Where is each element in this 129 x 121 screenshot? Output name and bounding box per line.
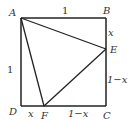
vertex-label-b: B bbox=[102, 5, 110, 16]
vertex-label-d: D bbox=[8, 106, 17, 117]
segment-ef bbox=[44, 49, 106, 106]
length-label-df: x bbox=[28, 108, 34, 119]
length-label-ab: 1 bbox=[62, 5, 68, 16]
segment-ae bbox=[21, 18, 106, 49]
length-label-ec: 1−x bbox=[107, 74, 128, 85]
vertex-label-e: E bbox=[109, 44, 118, 55]
length-label-fc: 1−x bbox=[68, 108, 89, 119]
vertex-label-a: A bbox=[8, 7, 16, 18]
vertex-label-f: F bbox=[40, 110, 49, 121]
length-label-ad: 1 bbox=[7, 64, 13, 75]
vertex-label-c: C bbox=[103, 110, 111, 121]
geometry-diagram: A B C D E F 1 1 x 1−x x 1−x bbox=[0, 0, 129, 121]
length-label-be: x bbox=[108, 27, 114, 38]
segment-fa bbox=[21, 18, 44, 106]
